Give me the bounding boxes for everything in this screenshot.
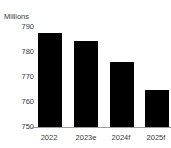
y-tick-label: 770 [21,73,34,81]
y-tick-label: 760 [21,98,34,106]
y-tick-label: 780 [21,48,34,56]
bar [38,33,62,127]
bar [110,62,134,127]
bar-chart: Millions 790 780 770 760 750 2022 2023e … [0,0,171,148]
plot-area: 790 780 770 760 750 2022 2023e 2024f 202… [0,0,171,148]
bar [145,90,169,128]
x-tick-label: 2022 [32,133,66,142]
bar [74,41,98,127]
x-tick-label: 2024f [104,133,138,142]
y-tick-label: 790 [21,23,34,31]
x-tick-label: 2023e [69,133,103,142]
x-tick-label: 2025f [139,133,171,142]
x-axis-line [32,127,171,128]
